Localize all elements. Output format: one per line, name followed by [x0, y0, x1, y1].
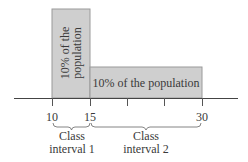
class-interval-2-label: Class interval 2: [120, 130, 172, 156]
bar-1-label-line2: population: [71, 13, 83, 93]
tick-label-15: 15: [80, 111, 100, 124]
class-interval-1-line2: interval 1: [46, 143, 98, 156]
bar-2-label: 10% of the population: [90, 77, 202, 90]
class-interval-1-label: Class interval 1: [46, 130, 98, 156]
class-interval-2-line2: interval 2: [120, 143, 172, 156]
tick-label-10: 10: [42, 111, 62, 124]
tick-label-30: 30: [192, 111, 212, 124]
bar-1-label: 10% of the population: [59, 13, 83, 93]
x-axis-ticks: [53, 98, 203, 106]
